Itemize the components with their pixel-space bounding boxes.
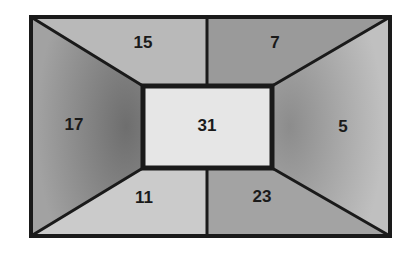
label-right: 5 — [338, 117, 347, 136]
label-center: 31 — [198, 116, 217, 135]
label-bottom-left: 11 — [135, 188, 153, 207]
label-top-right: 7 — [270, 33, 279, 52]
label-left: 17 — [65, 115, 84, 134]
label-bottom-right: 23 — [253, 187, 272, 206]
frame-diagram: 15 7 17 31 5 11 23 — [0, 0, 410, 260]
label-top-left: 15 — [134, 33, 153, 52]
